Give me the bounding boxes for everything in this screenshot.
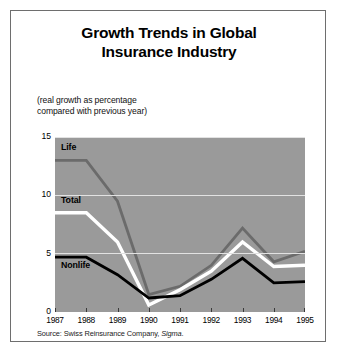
x-tick-1994 <box>274 308 275 312</box>
page-title: Growth Trends in Global Insurance Indust… <box>11 23 327 61</box>
y-tick-label-5: 5 <box>31 248 51 258</box>
x-tick-1991 <box>180 308 181 312</box>
line-chart-svg <box>55 137 305 312</box>
plot-area <box>55 137 305 312</box>
source-suffix: . <box>182 329 184 338</box>
source-publication: Sigma <box>161 329 181 338</box>
subtitle-line-2: compared with previous year) <box>37 106 147 117</box>
chart-frame: Growth Trends in Global Insurance Indust… <box>10 10 326 342</box>
x-tick-1995 <box>304 308 305 312</box>
x-tick-1989 <box>118 308 119 312</box>
series-label-life: Life <box>61 142 76 152</box>
series-label-nonlife: Nonlife <box>61 260 90 270</box>
x-tick-1993 <box>243 308 244 312</box>
gridline-10 <box>55 195 305 196</box>
title-line-1: Growth Trends in Global <box>11 23 327 42</box>
subtitle-line-1: (real growth as percentage <box>37 95 147 106</box>
source-note: Source: Swiss Reinsurance Company, Sigma… <box>37 329 184 338</box>
series-line-total <box>55 213 305 305</box>
chart-subtitle: (real growth as percentage compared with… <box>37 95 147 116</box>
y-axis: 051015 <box>29 137 51 312</box>
gridline-15 <box>55 137 305 138</box>
x-tick-label-1995: 1995 <box>285 315 325 325</box>
gridline-5 <box>55 253 305 254</box>
x-tick-1987 <box>55 308 56 312</box>
series-line-life <box>55 160 305 294</box>
source-prefix: Source: Swiss Reinsurance Company, <box>37 329 161 338</box>
x-tick-1992 <box>211 308 212 312</box>
series-label-total: Total <box>61 195 81 205</box>
y-tick-label-10: 10 <box>31 189 51 199</box>
title-line-2: Insurance Industry <box>11 42 327 61</box>
x-tick-1988 <box>86 308 87 312</box>
y-tick-label-15: 15 <box>31 131 51 141</box>
x-tick-1990 <box>149 308 150 312</box>
